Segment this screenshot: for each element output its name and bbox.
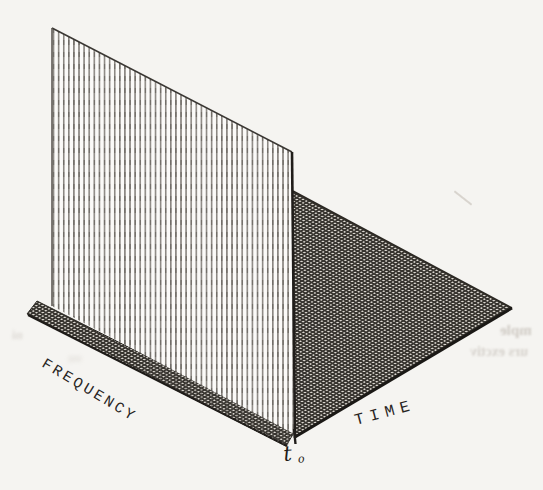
t0-label-main: t xyxy=(282,441,293,466)
t0-label-subscript: o xyxy=(297,452,305,466)
time-axis-label: TIME xyxy=(353,396,418,430)
scanned-figure-page: mple urs exctiv ni ou xyxy=(0,0,543,490)
t0-tick xyxy=(294,429,296,444)
frequency-axis-label: FREQUENCY xyxy=(38,356,139,426)
time-frequency-diagram: FREQUENCY TIME t o xyxy=(0,0,543,490)
t0-label: t o xyxy=(282,440,305,467)
